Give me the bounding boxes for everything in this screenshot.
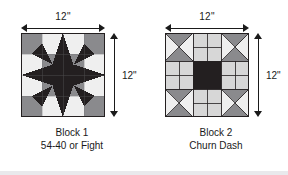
block-2-caption-line2: Churn Dash: [144, 139, 288, 152]
block-2-center-square: [193, 61, 221, 89]
block-2-height-dimension: 12": [254, 33, 284, 117]
dimension-line: [258, 37, 259, 113]
block-1-panel: 12": [0, 0, 144, 175]
block-1-caption-line2: 54-40 or Fight: [0, 139, 144, 152]
block-2-height-label: 12": [266, 70, 281, 81]
block-1-width-label: 12": [21, 11, 105, 22]
block-2-width-label: 12": [165, 11, 249, 22]
block-1-caption-line1: Block 1: [0, 126, 144, 139]
dimension-line: [25, 28, 101, 29]
block-2-width-dimension: 12": [165, 12, 249, 32]
block-2-caption-line1: Block 2: [144, 126, 288, 139]
block-2-panel: 12": [144, 0, 288, 175]
bottom-divider: [0, 171, 288, 175]
block-1-width-dimension: 12": [21, 12, 105, 32]
dimension-line: [169, 28, 245, 29]
arrow-down-icon: [254, 111, 262, 117]
block-2-diagram: [165, 33, 249, 117]
block-1-diagram: [21, 33, 105, 117]
figure-canvas: 12": [0, 0, 288, 175]
block-1-height-dimension: 12": [110, 33, 140, 117]
dimension-line: [114, 37, 115, 113]
block-1-caption: Block 1 54-40 or Fight: [0, 126, 144, 152]
block-1-height-label: 12": [122, 70, 137, 81]
arrow-down-icon: [110, 111, 118, 117]
arrow-right-icon: [243, 24, 249, 32]
block-2-caption: Block 2 Churn Dash: [144, 126, 288, 152]
arrow-right-icon: [99, 24, 105, 32]
